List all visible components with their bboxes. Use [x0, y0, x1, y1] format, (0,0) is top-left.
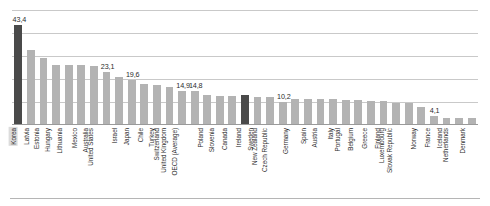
- bar[interactable]: [417, 107, 425, 125]
- category-label: Chile: [136, 127, 145, 143]
- bar-slot: [453, 10, 466, 125]
- category-label: Greece: [360, 127, 369, 150]
- bar-slot: [88, 10, 101, 125]
- category-label: Poland: [196, 127, 205, 149]
- category-label: France: [423, 127, 432, 149]
- bar-slot: [314, 10, 327, 125]
- bar[interactable]: [392, 103, 400, 125]
- bar[interactable]: [128, 80, 136, 125]
- bar-slot: 43,4: [12, 10, 25, 125]
- category-label: Israel: [110, 127, 119, 144]
- bar[interactable]: [27, 50, 35, 125]
- bar[interactable]: [216, 96, 224, 125]
- bar[interactable]: [166, 87, 174, 125]
- bar-slot: 23,1: [100, 10, 113, 125]
- category-label: Korea: [9, 127, 18, 146]
- category-slot: Denmark: [465, 126, 478, 198]
- bar[interactable]: [90, 66, 98, 125]
- bar-slot: 19,6: [125, 10, 138, 125]
- bar[interactable]: [354, 100, 362, 125]
- category-label: Slovenia: [207, 127, 216, 153]
- bar-slot: [214, 10, 227, 125]
- bar[interactable]: [291, 99, 299, 125]
- bar[interactable]: [103, 72, 111, 125]
- bar[interactable]: [77, 65, 85, 125]
- category-label: Norway: [410, 127, 419, 150]
- bar-slot: [302, 10, 315, 125]
- plot-area: 43,423,119,614,914,810,24,1: [12, 10, 478, 125]
- bar-slot: [339, 10, 352, 125]
- category-label: Slovak Republic: [385, 127, 394, 174]
- bar[interactable]: [266, 97, 274, 125]
- category-label: Austria: [310, 127, 319, 149]
- bar-slot: [62, 10, 75, 125]
- category-axis: KoreaLatviaEstoniaHungaryLithuaniaMexico…: [12, 126, 478, 198]
- bar[interactable]: [241, 95, 249, 125]
- bar-value-label: 4,1: [430, 106, 440, 115]
- bar[interactable]: [317, 99, 325, 125]
- bar-slot: [239, 10, 252, 125]
- category-label: Estonia: [32, 127, 41, 150]
- category-label: Germany: [281, 127, 290, 155]
- bar-slot: [390, 10, 403, 125]
- bar-slot: [352, 10, 365, 125]
- category-label: Netherlands: [441, 127, 450, 163]
- bar-slot: [402, 10, 415, 125]
- bar-slot: [415, 10, 428, 125]
- category-label: Belgium: [346, 127, 355, 152]
- bar-slot: [440, 10, 453, 125]
- category-label: Lithuania: [55, 127, 64, 155]
- bar[interactable]: [329, 99, 337, 125]
- bar[interactable]: [115, 77, 123, 125]
- bar-chart: 43,423,119,614,914,810,24,1 KoreaLatviaE…: [0, 0, 490, 206]
- category-label: Hungary: [43, 127, 52, 153]
- bar-slot: [465, 10, 478, 125]
- bar[interactable]: [405, 103, 413, 125]
- bar[interactable]: [178, 91, 186, 125]
- category-label: Canada: [220, 127, 229, 151]
- bar-slot: [138, 10, 151, 125]
- category-label: United Kingdom: [159, 127, 168, 174]
- bar-slot: 10,2: [276, 10, 289, 125]
- bar-series: 43,423,119,614,914,810,24,1: [12, 10, 478, 125]
- bar-slot: [37, 10, 50, 125]
- bottom-rule: [10, 198, 480, 199]
- bar[interactable]: [254, 97, 262, 125]
- bar[interactable]: [191, 91, 199, 125]
- bar[interactable]: [40, 58, 48, 125]
- bar[interactable]: [153, 85, 161, 125]
- category-label: Denmark: [458, 127, 467, 155]
- category-label: United States: [87, 127, 96, 167]
- bar[interactable]: [367, 101, 375, 125]
- bar[interactable]: [65, 65, 73, 125]
- bar[interactable]: [279, 102, 287, 125]
- axis-baseline: [12, 124, 478, 125]
- bar[interactable]: [342, 100, 350, 125]
- bar-slot: [289, 10, 302, 125]
- bar[interactable]: [228, 96, 236, 125]
- bar-slot: 14,8: [188, 10, 201, 125]
- bar[interactable]: [52, 65, 60, 125]
- bar[interactable]: [380, 101, 388, 125]
- bar-slot: [226, 10, 239, 125]
- category-label: New Zealand: [251, 127, 260, 166]
- category-label: Spain: [299, 127, 308, 145]
- category-label: Ireland: [234, 127, 243, 148]
- bar[interactable]: [203, 95, 211, 125]
- bar-slot: [50, 10, 63, 125]
- bar-slot: [163, 10, 176, 125]
- category-label: Japan: [122, 127, 131, 146]
- bar[interactable]: [14, 25, 22, 125]
- bar[interactable]: [304, 99, 312, 125]
- bar-slot: 4,1: [428, 10, 441, 125]
- category-slot: Austria: [314, 126, 327, 198]
- bar-slot: [327, 10, 340, 125]
- bar-slot: [251, 10, 264, 125]
- bar-slot: [75, 10, 88, 125]
- category-label: OECD (Average): [170, 127, 179, 176]
- category-label: Portugal: [333, 127, 342, 152]
- category-label: Mexico: [70, 127, 79, 149]
- bar-slot: 14,9: [176, 10, 189, 125]
- bar[interactable]: [140, 84, 148, 125]
- bar-slot: [264, 10, 277, 125]
